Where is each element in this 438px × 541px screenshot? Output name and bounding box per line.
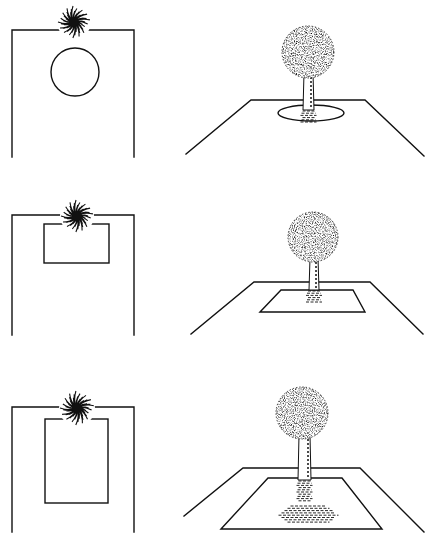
tree-trunk [298,435,311,480]
plan-view [12,5,134,157]
plan-frame [12,30,134,157]
plan-frame [12,407,134,532]
plan-view [12,390,134,532]
plan-opening-circle [51,48,99,96]
tree-planting-diagram [0,0,438,541]
plan-frame [12,215,134,335]
perspective-view [191,212,423,334]
diagram-row-2 [12,199,423,335]
plan-opening-rect [45,419,108,503]
tree-canopy-center [72,403,82,413]
trunk-shadow-hatching [306,291,322,302]
tree-trunk [303,73,314,110]
diagram-row-1 [12,5,424,157]
perspective-view [184,387,424,532]
perspective-view [186,26,424,156]
tree-canopy-center [70,18,79,27]
trunk-shadow-hatching [279,481,339,522]
tree-canopy-center [73,212,82,221]
tree-trunk [309,258,319,290]
plan-view [12,199,134,335]
diagram-row-3 [12,387,424,532]
